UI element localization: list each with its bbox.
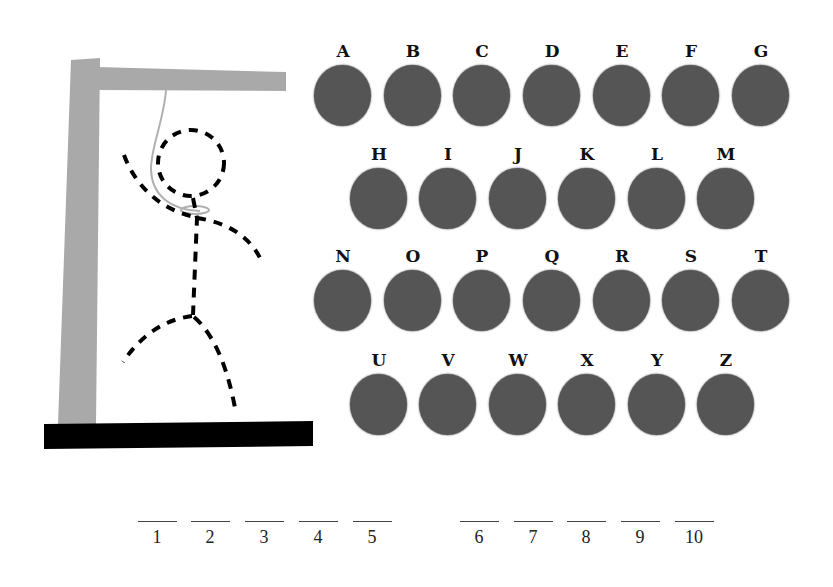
slot-number: 8 — [566, 526, 606, 548]
figure-head — [158, 130, 224, 196]
letter-button-o[interactable]: O — [384, 248, 442, 328]
letter-button-n[interactable]: N — [314, 248, 372, 328]
word-slot: 1 — [137, 521, 177, 548]
slot-underline — [621, 521, 660, 522]
letter-button-u[interactable]: U — [350, 352, 408, 432]
slot-underline — [460, 521, 499, 522]
slot-underline — [675, 521, 714, 522]
letter-oval[interactable] — [558, 374, 615, 435]
letter-button-q[interactable]: Q — [523, 248, 581, 328]
letter-label: U — [350, 350, 408, 370]
slot-underline — [567, 521, 606, 522]
letter-button-z[interactable]: Z — [697, 352, 755, 432]
letter-oval[interactable] — [489, 168, 546, 229]
letter-button-g[interactable]: G — [732, 43, 790, 123]
letter-button-e[interactable]: E — [593, 43, 651, 123]
word-slot: 3 — [244, 521, 284, 548]
letter-button-m[interactable]: M — [697, 146, 755, 226]
letter-label: R — [593, 246, 651, 266]
letter-button-l[interactable]: L — [628, 146, 686, 226]
letter-label: A — [314, 41, 372, 61]
letter-oval[interactable] — [593, 270, 650, 331]
letter-button-f[interactable]: F — [662, 43, 720, 123]
slot-underline — [245, 521, 284, 522]
letter-oval[interactable] — [384, 270, 441, 331]
letter-button-v[interactable]: V — [419, 352, 477, 432]
letter-button-x[interactable]: X — [558, 352, 616, 432]
letter-oval[interactable] — [314, 270, 371, 331]
letter-oval[interactable] — [628, 374, 685, 435]
letter-label: N — [314, 246, 372, 266]
letter-oval[interactable] — [314, 65, 371, 126]
letter-oval[interactable] — [453, 270, 510, 331]
rope — [151, 90, 200, 211]
letter-label: Y — [628, 350, 686, 370]
slot-number: 7 — [513, 526, 553, 548]
letter-button-y[interactable]: Y — [628, 352, 686, 432]
letter-oval[interactable] — [593, 65, 650, 126]
letter-oval[interactable] — [384, 65, 441, 126]
word-slot: 8 — [566, 521, 606, 548]
letter-label: H — [350, 144, 408, 164]
slot-number: 9 — [620, 526, 660, 548]
letter-button-r[interactable]: R — [593, 248, 651, 328]
letter-oval[interactable] — [662, 270, 719, 331]
letter-button-w[interactable]: W — [489, 352, 547, 432]
letter-button-b[interactable]: B — [384, 43, 442, 123]
letter-oval[interactable] — [558, 168, 615, 229]
letter-oval[interactable] — [523, 270, 580, 331]
letter-label: D — [523, 41, 581, 61]
word-slot: 6 — [459, 521, 499, 548]
letter-button-k[interactable]: K — [558, 146, 616, 226]
letter-button-c[interactable]: C — [453, 43, 511, 123]
letter-button-h[interactable]: H — [350, 146, 408, 226]
letter-button-j[interactable]: J — [489, 146, 547, 226]
letter-button-a[interactable]: A — [314, 43, 372, 123]
figure-body — [193, 198, 197, 315]
letter-oval[interactable] — [628, 168, 685, 229]
word-slot: 9 — [620, 521, 660, 548]
letter-oval[interactable] — [419, 168, 476, 229]
letter-label: L — [628, 144, 686, 164]
letter-oval[interactable] — [732, 270, 789, 331]
slot-number: 3 — [244, 526, 284, 548]
letter-oval[interactable] — [419, 374, 476, 435]
letter-button-d[interactable]: D — [523, 43, 581, 123]
letter-oval[interactable] — [350, 168, 407, 229]
slot-underline — [191, 521, 230, 522]
letter-oval[interactable] — [453, 65, 510, 126]
letter-label: I — [419, 144, 477, 164]
letter-oval[interactable] — [350, 374, 407, 435]
letter-label: C — [453, 41, 511, 61]
letter-label: F — [662, 41, 720, 61]
figure-left-leg — [123, 316, 192, 362]
letter-label: K — [558, 144, 616, 164]
letter-button-i[interactable]: I — [419, 146, 477, 226]
letter-label: X — [558, 350, 616, 370]
slot-number: 6 — [459, 526, 499, 548]
letter-oval[interactable] — [697, 168, 754, 229]
letter-label: S — [662, 246, 720, 266]
slot-number: 5 — [352, 526, 392, 548]
letter-button-p[interactable]: P — [453, 248, 511, 328]
slot-underline — [514, 521, 553, 522]
word-slot: 2 — [190, 521, 230, 548]
letter-label: E — [593, 41, 651, 61]
letter-oval[interactable] — [523, 65, 580, 126]
letter-oval[interactable] — [662, 65, 719, 126]
gallows-post — [58, 58, 100, 425]
word-slot: 10 — [674, 521, 714, 548]
letter-label: J — [489, 144, 547, 164]
letter-label: O — [384, 246, 442, 266]
letter-label: Q — [523, 246, 581, 266]
letter-button-s[interactable]: S — [662, 248, 720, 328]
slot-number: 4 — [298, 526, 338, 548]
letter-button-t[interactable]: T — [732, 248, 790, 328]
letter-oval[interactable] — [489, 374, 546, 435]
letter-label: W — [489, 350, 547, 370]
letter-oval[interactable] — [732, 65, 789, 126]
letter-label: M — [697, 144, 755, 164]
letter-label: Z — [697, 350, 755, 370]
letter-oval[interactable] — [697, 374, 754, 435]
slot-underline — [299, 521, 338, 522]
